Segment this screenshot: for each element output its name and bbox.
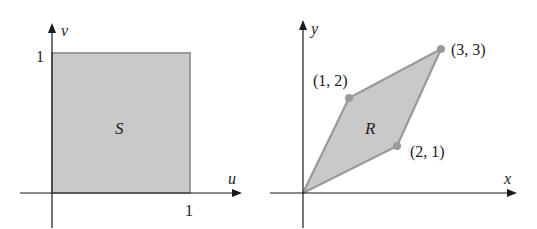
region-r-label: R [364, 119, 376, 138]
v-tick-label: 1 [36, 48, 44, 65]
right-panel: y x (1, 2) (3, 3) (2, 1) R [270, 20, 515, 228]
vertex-label-2-1: (2, 1) [410, 143, 445, 161]
u-tick-label: 1 [185, 202, 193, 219]
u-axis-label: u [228, 170, 236, 187]
vertex-point-3-3 [437, 45, 445, 53]
v-axis-label: v [61, 22, 69, 39]
figure: v u 1 1 S y x (1, 2) (3, 3) (2, 1) R [0, 0, 537, 229]
y-axis-label: y [309, 20, 319, 38]
vertex-label-1-2: (1, 2) [313, 72, 348, 90]
x-axis-label: x [503, 170, 511, 187]
vertex-point-1-2 [345, 94, 353, 102]
region-s-label: S [115, 119, 124, 138]
vertex-point-2-1 [393, 142, 401, 150]
left-panel: v u 1 1 S [20, 22, 240, 228]
vertex-label-3-3: (3, 3) [451, 41, 486, 59]
